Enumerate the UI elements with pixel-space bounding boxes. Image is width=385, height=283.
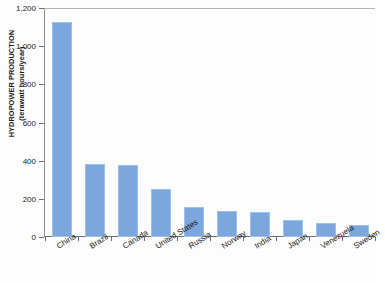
x-axis-label-group: ChinaBrazilCanadaUnited StatesRussiaNorw…: [45, 243, 385, 283]
bar-slot: [309, 8, 342, 237]
bars-group: [45, 8, 375, 237]
bar-slot: [78, 8, 111, 237]
bar-china: [52, 22, 72, 237]
y-axis-tick-group: 02004006008001,0001,200: [0, 0, 44, 245]
bar-slot: [144, 8, 177, 237]
bar-slot: [177, 8, 210, 237]
y-axis-tick-label: 0: [32, 233, 36, 242]
bar-slot: [210, 8, 243, 237]
x-axis-tick-mark: [45, 237, 46, 241]
y-axis-tick-label: 1,200: [16, 4, 36, 13]
bar-slot: [276, 8, 309, 237]
y-axis-tick-label: 1,000: [16, 42, 36, 51]
bar-slot: [45, 8, 78, 237]
bar-slot: [111, 8, 144, 237]
y-axis-tick-label: 200: [23, 194, 36, 203]
bar-canada: [118, 165, 138, 237]
bar-united-states: [151, 189, 171, 237]
y-axis-tick-label: 600: [23, 118, 36, 127]
bar-slot: [243, 8, 276, 237]
bar-slot: [342, 8, 375, 237]
bar-brazil: [85, 164, 105, 237]
y-axis-tick-mark: [39, 237, 44, 238]
x-axis-tick-mark: [111, 237, 112, 241]
y-axis-tick-label: 400: [23, 156, 36, 165]
x-axis-tick-mark: [78, 237, 79, 241]
y-axis-tick-label: 800: [23, 80, 36, 89]
x-axis-tick-mark: [276, 237, 277, 241]
